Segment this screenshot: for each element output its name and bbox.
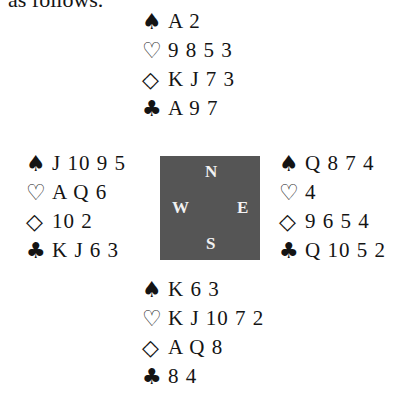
east-diamonds-row: ◇9 6 5 4 bbox=[279, 207, 386, 236]
intro-text: as follows. bbox=[8, 0, 103, 12]
diamond-icon: ◇ bbox=[26, 207, 52, 236]
south-diamonds-row: ◇A Q 8 bbox=[142, 333, 264, 362]
club-icon: ♣ bbox=[142, 94, 168, 123]
north-spades: A 2 bbox=[168, 7, 201, 36]
west-clubs: K J 6 3 bbox=[52, 236, 119, 265]
spade-icon: ♠ bbox=[279, 149, 305, 178]
north-clubs: A 9 7 bbox=[168, 94, 219, 123]
west-diamonds-row: ◇10 2 bbox=[26, 207, 126, 236]
club-icon: ♣ bbox=[279, 236, 305, 265]
south-hand: ♠K 6 3 ♡K J 10 7 2 ◇A Q 8 ♣8 4 bbox=[142, 275, 264, 391]
spade-icon: ♠ bbox=[142, 275, 168, 304]
south-spades: K 6 3 bbox=[168, 275, 220, 304]
diamond-icon: ◇ bbox=[279, 207, 305, 236]
east-hearts: 4 bbox=[305, 178, 317, 207]
west-hand: ♠J 10 9 5 ♡A Q 6 ◇10 2 ♣K J 6 3 bbox=[26, 149, 126, 265]
north-hearts: 9 8 5 3 bbox=[168, 36, 233, 65]
west-diamonds: 10 2 bbox=[52, 207, 93, 236]
diamond-icon: ◇ bbox=[142, 65, 168, 94]
north-hand: ♠A 2 ♡9 8 5 3 ◇K J 7 3 ♣A 9 7 bbox=[142, 7, 235, 123]
east-diamonds: 9 6 5 4 bbox=[305, 207, 370, 236]
spade-icon: ♠ bbox=[26, 149, 52, 178]
south-hearts: K J 10 7 2 bbox=[168, 304, 264, 333]
heart-icon: ♡ bbox=[142, 36, 168, 65]
diamond-icon: ◇ bbox=[142, 333, 168, 362]
south-spades-row: ♠K 6 3 bbox=[142, 275, 264, 304]
compass-west: W bbox=[172, 198, 189, 218]
compass-table: N W E S bbox=[160, 156, 260, 260]
south-diamonds: A Q 8 bbox=[168, 333, 223, 362]
south-hearts-row: ♡K J 10 7 2 bbox=[142, 304, 264, 333]
club-icon: ♣ bbox=[26, 236, 52, 265]
east-clubs-row: ♣Q 10 5 2 bbox=[279, 236, 386, 265]
west-hearts: A Q 6 bbox=[52, 178, 107, 207]
north-spades-row: ♠A 2 bbox=[142, 7, 235, 36]
west-spades-row: ♠J 10 9 5 bbox=[26, 149, 126, 178]
heart-icon: ♡ bbox=[142, 304, 168, 333]
west-clubs-row: ♣K J 6 3 bbox=[26, 236, 126, 265]
east-spades: Q 8 7 4 bbox=[305, 149, 374, 178]
west-hearts-row: ♡A Q 6 bbox=[26, 178, 126, 207]
east-hand: ♠Q 8 7 4 ♡4 ◇9 6 5 4 ♣Q 10 5 2 bbox=[279, 149, 386, 265]
compass-south: S bbox=[206, 234, 215, 254]
east-clubs: Q 10 5 2 bbox=[305, 236, 386, 265]
west-spades: J 10 9 5 bbox=[52, 149, 126, 178]
compass-east: E bbox=[237, 198, 248, 218]
north-hearts-row: ♡9 8 5 3 bbox=[142, 36, 235, 65]
compass-north: N bbox=[205, 162, 217, 182]
club-icon: ♣ bbox=[142, 362, 168, 391]
north-clubs-row: ♣A 9 7 bbox=[142, 94, 235, 123]
east-spades-row: ♠Q 8 7 4 bbox=[279, 149, 386, 178]
south-clubs-row: ♣8 4 bbox=[142, 362, 264, 391]
east-hearts-row: ♡4 bbox=[279, 178, 386, 207]
north-diamonds: K J 7 3 bbox=[168, 65, 235, 94]
heart-icon: ♡ bbox=[279, 178, 305, 207]
spade-icon: ♠ bbox=[142, 7, 168, 36]
heart-icon: ♡ bbox=[26, 178, 52, 207]
north-diamonds-row: ◇K J 7 3 bbox=[142, 65, 235, 94]
south-clubs: 8 4 bbox=[168, 362, 197, 391]
